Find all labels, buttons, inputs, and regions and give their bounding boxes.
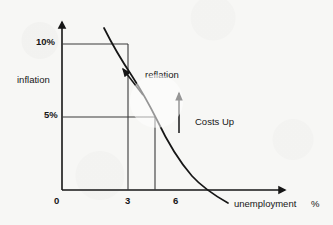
x-tick-label-0: 0: [54, 196, 59, 206]
reflation-arrow: [123, 69, 143, 95]
y-tick-label-10-percent: 10%: [36, 37, 55, 47]
x-tick-label-3: 3: [125, 196, 130, 206]
y-axis-title: inflation: [17, 75, 50, 85]
annotation-reflation: reflation: [145, 70, 179, 80]
phillips-curve-figure: 10% 5% inflation 0 3 6 unemployment % re…: [0, 0, 333, 225]
x-tick-label-6: 6: [173, 196, 178, 206]
annotation-costs-up: Costs Up: [195, 117, 234, 127]
x-axis-title: unemployment: [234, 199, 296, 209]
y-tick-label-5-percent: 5%: [44, 110, 58, 120]
x-axis-unit-label: %: [311, 199, 319, 209]
